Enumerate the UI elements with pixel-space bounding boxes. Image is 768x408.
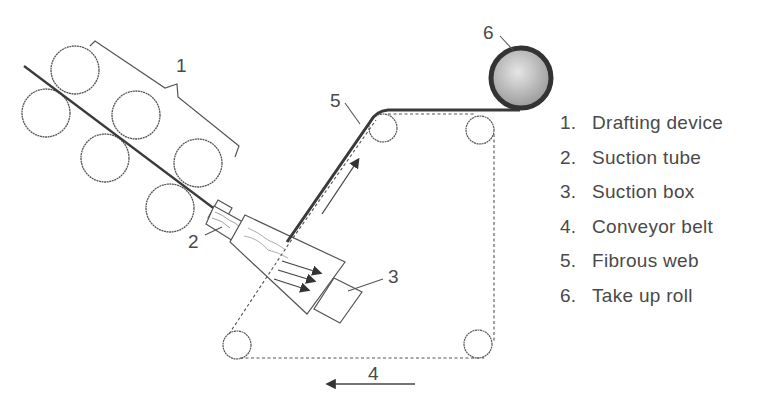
legend-number: 1. [560,106,592,141]
legend-item-fibrous-web: 5.Fibrous web [560,244,723,279]
drafting-roller [174,139,222,187]
legend-label: Fibrous web [592,250,699,271]
legend-number: 5. [560,244,592,279]
legend-number: 2. [560,141,592,176]
legend-label: Take up roll [592,285,693,306]
fibre-strand [24,66,216,210]
drafting-device-bracket [90,41,239,157]
legend-label: Drafting device [592,112,723,133]
legend-number: 6. [560,279,592,314]
legend-label: Suction tube [592,147,701,168]
legend-number: 3. [560,175,592,210]
legend: 1.Drafting device 2.Suction tube 3.Sucti… [560,106,723,313]
legend-item-conveyor-belt: 4.Conveyor belt [560,210,723,245]
fibrous-web [287,110,520,242]
drafting-roller [112,91,160,139]
callout-2: 2 [188,231,199,253]
callout-6: 6 [483,22,494,44]
drafting-roller [81,134,129,182]
callout-5: 5 [330,90,341,112]
callout-3: 3 [388,266,399,288]
legend-item-suction-tube: 2.Suction tube [560,141,723,176]
drafting-roller [146,184,194,232]
web-direction-arrow [322,160,358,214]
legend-item-take-up-roll: 6.Take up roll [560,279,723,314]
conveyor-roller [464,330,492,358]
legend-label: Conveyor belt [592,216,713,237]
callout-1: 1 [176,55,187,77]
conveyor-roller [223,331,251,359]
conveyor-roller [466,116,494,144]
legend-item-drafting-device: 1.Drafting device [560,106,723,141]
take-up-roll [491,48,551,108]
legend-item-suction-box: 3.Suction box [560,175,723,210]
callout-4: 4 [368,363,379,385]
drafting-roller [51,46,99,94]
legend-label: Suction box [592,181,695,202]
legend-number: 4. [560,210,592,245]
